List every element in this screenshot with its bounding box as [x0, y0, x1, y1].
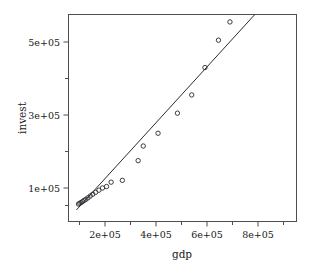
data-point [120, 178, 124, 182]
data-point [241, 7, 245, 11]
x-tick-label-0: 2e+05 [89, 229, 121, 240]
data-point [104, 184, 108, 188]
y-tick-label-0: 1e+05 [28, 183, 60, 194]
y-axis-title: invest [16, 101, 28, 134]
x-tick-label-2: 6e+05 [191, 229, 223, 240]
x-tick-label-3: 8e+05 [242, 229, 274, 240]
data-point [136, 158, 140, 162]
y-axis-major-ticks [64, 42, 69, 188]
data-point [190, 93, 194, 97]
data-point [175, 111, 179, 115]
y-axis-minor-ticks [65, 79, 69, 206]
x-axis-title: gdp [172, 248, 192, 260]
data-point [228, 20, 232, 24]
data-point [156, 131, 160, 135]
y-tick-label-1: 3e+05 [28, 110, 60, 121]
data-point [109, 180, 113, 184]
scatter-plot-figure: 2e+05 4e+05 6e+05 8e+05 1e+05 3e+05 5e+0… [0, 0, 316, 270]
data-point [216, 38, 220, 42]
regression-line [76, 0, 279, 210]
x-tick-label-1: 4e+05 [140, 229, 172, 240]
data-point [141, 144, 145, 148]
chart-canvas: 2e+05 4e+05 6e+05 8e+05 1e+05 3e+05 5e+0… [0, 0, 316, 270]
y-tick-label-2: 5e+05 [28, 37, 60, 48]
x-axis-minor-ticks [80, 222, 284, 226]
